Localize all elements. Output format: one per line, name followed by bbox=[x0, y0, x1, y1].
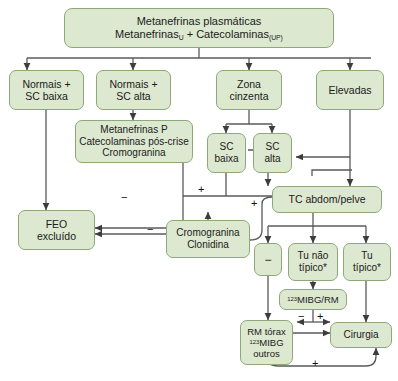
cromogranina-clonidina-line-2: Clonidina bbox=[170, 239, 246, 251]
metanefrinas-p-line-1: Metanefrinas P bbox=[79, 124, 189, 136]
node-metanefrinas-plasmaticas: Metanefrinas plasmáticas MetanefrinasU +… bbox=[64, 8, 334, 48]
edge-label-plus-zona-to-tc: + bbox=[198, 184, 204, 195]
tu-nao-tipico-line-1: Tu não bbox=[292, 250, 334, 262]
elevadas-line-1: Elevadas bbox=[320, 84, 380, 96]
metanefrinas-p-line-2: Catecolaminas pós-crise bbox=[79, 136, 189, 148]
node-cromogranina-clonidina: Cromogranina Clonidina bbox=[166, 220, 250, 258]
rm-torax-line-3: outros bbox=[244, 348, 289, 359]
tu-tipico-line-2: típico* bbox=[347, 262, 387, 274]
normais-sc-alta-line-1: Normais + bbox=[100, 78, 167, 90]
minus-branch-label: − bbox=[264, 253, 271, 267]
sc-baixa-line-2: baixa bbox=[211, 153, 242, 165]
sc-alta-line-2: alta bbox=[257, 153, 288, 165]
node-minus-branch: − bbox=[254, 243, 282, 276]
node-sc-baixa: SC baixa bbox=[207, 133, 246, 173]
node-tu-nao-tipico: Tu não típico* bbox=[288, 243, 338, 281]
node-elevadas: Elevadas bbox=[316, 70, 384, 110]
node-mibg-rm: 123MIBG/RM bbox=[279, 289, 347, 310]
flowchart-canvas: Metanefrinas plasmáticas MetanefrinasU +… bbox=[0, 0, 398, 381]
zona-cinzenta-line-2: cinzenta bbox=[220, 90, 278, 102]
edge-label-minus-rm-torax: − bbox=[298, 311, 304, 322]
cromogranina-clonidina-line-1: Cromogranina bbox=[170, 227, 246, 239]
title-line-2: MetanefrinasU + Catecolaminas(UP) bbox=[68, 28, 330, 42]
feo-excluido-line-1: FEO bbox=[22, 218, 91, 230]
node-sc-alta: SC alta bbox=[253, 133, 292, 173]
node-tu-tipico: Tu típico* bbox=[343, 243, 391, 281]
title-line-1: Metanefrinas plasmáticas bbox=[68, 15, 330, 28]
tu-nao-tipico-line-2: típico* bbox=[292, 262, 334, 274]
rm-torax-line-2: 123MIBG bbox=[244, 337, 289, 348]
normais-sc-baixa-line-1: Normais + bbox=[13, 78, 80, 90]
node-zona-cinzenta: Zona cinzenta bbox=[216, 70, 282, 110]
node-normais-sc-baixa: Normais + SC baixa bbox=[9, 70, 84, 110]
edge-label-plus-feedback-cirurgia: + bbox=[312, 358, 318, 369]
normais-sc-alta-line-2: SC alta bbox=[100, 90, 167, 102]
metanefrinas-p-line-3: Cromogranina bbox=[79, 147, 189, 159]
edge-label-plus-cromogranina-tc: + bbox=[251, 198, 257, 209]
cirurgia-line-1: Cirurgia bbox=[334, 329, 388, 341]
sc-baixa-line-1: SC bbox=[211, 141, 242, 153]
edge-label-plus-rm-torax: + bbox=[317, 311, 323, 322]
sc-alta-line-1: SC bbox=[257, 141, 288, 153]
tc-abdom-pelve-line-1: TC abdom/pelve bbox=[276, 193, 378, 205]
node-rm-torax: RM tórax 123MIBG outros bbox=[240, 320, 293, 365]
edge-label-minus-cromogranina-feo: − bbox=[147, 224, 153, 235]
mibg-rm-line-1: 123MIBG/RM bbox=[283, 294, 343, 305]
node-cirurgia: Cirurgia bbox=[330, 322, 392, 348]
zona-cinzenta-line-1: Zona bbox=[220, 78, 278, 90]
tu-tipico-line-1: Tu bbox=[347, 250, 387, 262]
node-feo-excluido: FEO excluído bbox=[18, 210, 95, 250]
edge-label-minus-metanefrinas-feo: − bbox=[121, 192, 127, 203]
feo-excluido-line-2: excluído bbox=[22, 230, 91, 242]
rm-torax-line-1: RM tórax bbox=[244, 326, 289, 337]
node-tc-abdom-pelve: TC abdom/pelve bbox=[272, 186, 382, 213]
node-metanefrinas-p: Metanefrinas P Catecolaminas pós-crise C… bbox=[75, 120, 193, 163]
node-normais-sc-alta: Normais + SC alta bbox=[96, 70, 171, 110]
normais-sc-baixa-line-2: SC baixa bbox=[13, 90, 80, 102]
